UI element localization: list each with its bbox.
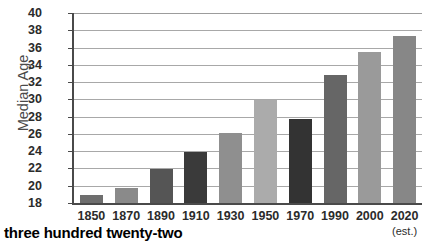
y-tick-mark-38 [68, 30, 73, 31]
median-age-bar-chart: Median Age 403836343230282624222018 1850… [0, 0, 432, 212]
y-tick-mark-22 [68, 168, 73, 169]
bar-1970 [289, 119, 312, 203]
y-tick-mark-36 [68, 48, 73, 49]
y-axis-line [72, 13, 74, 204]
gridline-38 [74, 30, 422, 31]
y-tick-label-34: 34 [2, 59, 42, 72]
y-tick-mark-32 [68, 82, 73, 83]
y-tick-mark-28 [68, 117, 73, 118]
y-tick-label-22: 22 [2, 162, 42, 175]
x-tick-label-2020: 2020 [380, 209, 430, 223]
y-tick-mark-24 [68, 151, 73, 152]
x-axis-line [72, 203, 422, 205]
y-tick-label-20: 20 [2, 180, 42, 193]
plot-area: 403836343230282624222018 185018701890191… [74, 13, 422, 203]
y-tick-mark-34 [68, 65, 73, 66]
y-tick-label-24: 24 [2, 145, 42, 158]
y-tick-label-38: 38 [2, 24, 42, 37]
bar-1890 [150, 169, 173, 203]
y-tick-label-30: 30 [2, 93, 42, 106]
bar-1870 [115, 188, 138, 203]
bar-1850 [80, 195, 103, 203]
y-tick-label-26: 26 [2, 128, 42, 141]
bar-1990 [324, 75, 347, 203]
y-tick-label-40: 40 [2, 7, 42, 20]
y-tick-mark-18 [68, 203, 73, 204]
x-tick-sublabel-2020: (est.) [380, 225, 430, 237]
bar-1910 [184, 152, 207, 203]
gridline-40 [74, 13, 422, 14]
bar-2000 [358, 52, 381, 203]
y-tick-label-18: 18 [2, 197, 42, 210]
gridline-36 [74, 48, 422, 49]
bar-1950 [254, 100, 277, 203]
y-tick-mark-30 [68, 99, 73, 100]
bar-2020 [393, 36, 416, 203]
y-tick-mark-40 [68, 13, 73, 14]
page-root: Median Age 403836343230282624222018 1850… [0, 0, 432, 247]
bar-1930 [219, 133, 242, 203]
y-tick-label-32: 32 [2, 76, 42, 89]
page-footer-text: three hundred twenty-two [4, 224, 183, 241]
y-tick-label-36: 36 [2, 42, 42, 55]
y-tick-mark-26 [68, 134, 73, 135]
y-tick-mark-20 [68, 186, 73, 187]
y-tick-label-28: 28 [2, 111, 42, 124]
